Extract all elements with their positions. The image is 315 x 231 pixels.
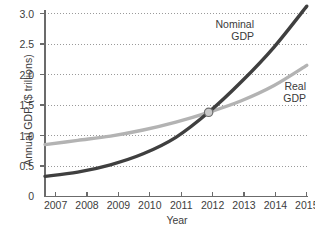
series-annotation-real-gdp: Real GDP bbox=[238, 80, 306, 104]
x-axis-title: Year bbox=[44, 214, 310, 226]
series-annotation-nominal-gdp: Nominal GDP bbox=[178, 18, 254, 42]
xtick-label-2015: 2015 bbox=[287, 200, 315, 211]
series-annotation-nominal-gdp-line2: GDP bbox=[178, 30, 254, 42]
y-axis-title: Annual GDP ($ trillions) bbox=[22, 30, 34, 190]
ytick-label-0: 0 bbox=[0, 191, 34, 202]
gdp-line-chart: 0 0.5 1.0 1.5 2.0 2.5 3.0 2007 2008 2009… bbox=[0, 0, 315, 231]
series-annotation-real-gdp-line2: GDP bbox=[238, 92, 306, 104]
series-annotation-real-gdp-line1: Real bbox=[238, 80, 306, 92]
intersection-marker-icon bbox=[204, 108, 212, 116]
series-annotation-nominal-gdp-line1: Nominal bbox=[178, 18, 254, 30]
ytick-label-3.0: 3.0 bbox=[0, 9, 34, 20]
plot-area bbox=[0, 0, 315, 231]
